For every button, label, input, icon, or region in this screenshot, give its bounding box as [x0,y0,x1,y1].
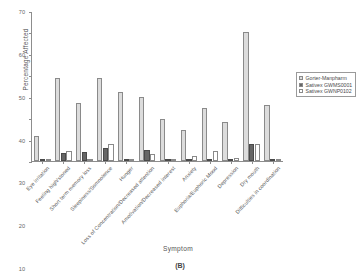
bar [165,159,170,161]
legend-swatch [299,89,303,93]
figure-caption: (B) [150,262,210,269]
x-category-label: Euphoria/Euphoric Mood [172,165,218,213]
legend-item: Sativex GWNP0102 [299,88,352,94]
x-category-label: Sleepiness/Somnolence [68,165,113,212]
legend-item: Sativex GWMS0001 [299,81,352,87]
bar [207,159,212,161]
y-tick-label: 40 [19,138,25,144]
bar [103,148,108,161]
bar [97,78,102,161]
bar [124,159,129,161]
x-category-label: Difficulties in coordination [234,165,281,215]
legend: Gorter-ManpharmSativex GWMS0001Sativex G… [296,72,356,97]
bar-groups [32,12,283,161]
bar [255,144,260,161]
bar [192,156,197,161]
legend-label: Gorter-Manpharm [306,75,347,81]
bar [34,136,39,161]
bar [234,158,239,161]
bar [228,159,233,161]
bar [171,159,176,161]
x-category-label: Anxiety [180,165,197,182]
legend-label: Sativex GWMS0001 [306,82,353,88]
bar [144,150,149,161]
bar [249,144,254,161]
bar [76,103,81,161]
bar-group [137,12,158,161]
bar [87,159,92,161]
y-tick-label: 70 [19,9,25,15]
bar-group [158,12,179,161]
bar [243,32,248,161]
bar [160,119,165,161]
y-tick-label: 50 [19,95,25,101]
x-axis-title: Symptom [118,245,238,252]
x-category-label: Dry mouth [238,165,260,188]
bar [82,152,87,161]
bar [46,159,51,161]
bar [181,130,186,161]
bar [213,151,218,161]
legend-item: Gorter-Manpharm [299,75,352,81]
y-tick-label: 60 [19,52,25,58]
bar-group [32,12,53,161]
bar [139,97,144,161]
bar-group [74,12,95,161]
bar [108,144,113,161]
bar-group [95,12,116,161]
y-tick-label: 30 [19,180,25,186]
bar-group [178,12,199,161]
chart-figure: Percentage Affected 010203040506070 Eye … [0,0,364,278]
y-tick-label: 10 [19,266,25,272]
bar-group [241,12,262,161]
bar [222,122,227,161]
legend-swatch [299,76,303,80]
bar-group [116,12,137,161]
x-category-label: Hunger [117,165,134,182]
y-tick: 0 [29,162,32,163]
x-category-label: Depression [216,165,239,189]
bar [55,78,60,161]
bar [264,105,269,161]
bar [40,159,45,161]
bar [270,159,275,161]
bar-group [220,12,241,161]
bar-group [53,12,74,161]
bar [66,151,71,161]
bar [276,159,281,161]
legend-swatch [299,83,303,87]
bar-group [262,12,283,161]
bar [186,159,191,161]
bar [150,154,155,161]
legend-label: Sativex GWNP0102 [306,88,352,94]
bar [61,153,66,161]
bar [118,92,123,161]
bar [129,159,134,161]
bar [202,108,207,161]
y-tick-label: 20 [19,223,25,229]
plot-area: 010203040506070 [31,12,283,162]
bar-group [199,12,220,161]
